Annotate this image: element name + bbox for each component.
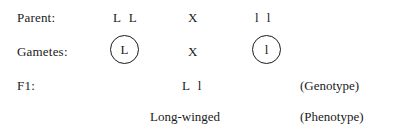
cross-symbol-parent: X: [188, 11, 197, 24]
genotype-annotation: (Genotype): [300, 79, 359, 92]
parent-right-genotype: l l: [255, 11, 273, 24]
genetic-cross-diagram: Parent: L L X l l Gametes: L X l F1: L l…: [0, 0, 397, 131]
parent-row-label: Parent:: [17, 11, 55, 24]
parent-left-genotype: L L: [113, 11, 139, 24]
phenotype-annotation: (Phenotype): [300, 110, 364, 123]
gametes-row-label: Gametes:: [17, 45, 68, 58]
gamete-left-allele: L: [121, 43, 129, 56]
gamete-circle-left: L: [110, 35, 139, 64]
gamete-right-allele: l: [265, 43, 269, 56]
cross-symbol-gametes: X: [188, 45, 197, 58]
f1-genotype: L l: [182, 79, 204, 92]
f1-phenotype: Long-winged: [150, 110, 220, 123]
f1-row-label: F1:: [17, 79, 35, 92]
gamete-circle-right: l: [252, 35, 281, 64]
